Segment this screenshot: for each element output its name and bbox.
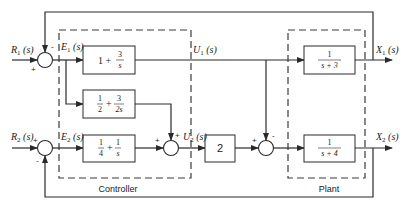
sum1-minus-sign: - <box>51 42 54 51</box>
sum2-minus-sign: - <box>36 156 39 165</box>
c21-den: 2s <box>115 105 122 114</box>
label-x2: X2 (s) <box>375 131 399 144</box>
sum3-plus-sign: + <box>155 136 160 145</box>
label-r2: R2 (s) <box>10 131 34 144</box>
c21-plus: + <box>106 98 112 109</box>
sum3-top-plus-sign: + <box>175 131 180 140</box>
c11-num: 3 <box>118 50 122 59</box>
c21-num: 3 <box>117 94 121 103</box>
c21-out-line <box>135 104 171 140</box>
label-u1: U1 (s) <box>193 44 217 57</box>
p2-den: s + 4 <box>321 149 338 158</box>
sum4-minus-sign: - <box>272 131 275 140</box>
label-x1: X1 (s) <box>375 44 399 57</box>
sum4-plus-sign: + <box>252 136 257 145</box>
summing-junction-1 <box>38 53 53 68</box>
label-e1: E1 (s) <box>60 41 84 54</box>
p1-den: s + 3 <box>321 61 338 70</box>
c22-lead-num: 1 <box>99 138 103 147</box>
c11-lead: 1 + <box>98 55 112 66</box>
gain-value: 2 <box>217 142 223 154</box>
sum2-plus-sign: + <box>33 136 38 145</box>
plant-caption: Plant <box>319 184 340 194</box>
p2-num: 1 <box>328 138 332 147</box>
summing-junction-4 <box>259 141 274 156</box>
label-e2: E2 (s) <box>60 131 84 144</box>
sum1-plus-sign: + <box>31 65 36 74</box>
summing-junction-2 <box>38 141 53 156</box>
summing-junction-3 <box>164 141 179 156</box>
c22-plus: + <box>107 142 113 153</box>
label-u2: U2 (s) <box>183 131 207 144</box>
c22-lead-den: 4 <box>99 149 103 158</box>
p1-num: 1 <box>328 50 332 59</box>
c21-lead-den: 2 <box>98 105 102 114</box>
c22-den: s <box>116 149 119 158</box>
block-diagram: 1 + 3 s 1 2 + 3 2s 1 4 + 1 s 2 1 s + 3 1… <box>0 0 406 209</box>
controller-caption: Controller <box>98 184 137 194</box>
c21-lead-num: 1 <box>98 94 102 103</box>
c22-num: 1 <box>116 138 120 147</box>
c11-den: s <box>118 61 121 70</box>
e1-branch-line <box>66 60 83 104</box>
label-r1: R1 (s) <box>10 44 34 57</box>
